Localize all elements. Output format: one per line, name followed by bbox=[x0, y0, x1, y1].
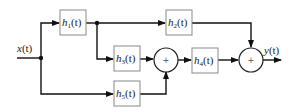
svg-text:h4(t): h4(t) bbox=[194, 54, 214, 68]
junction-h1 bbox=[95, 21, 99, 25]
block-h2: h2(t) bbox=[166, 10, 192, 35]
summer-1: + bbox=[154, 48, 178, 72]
output-label: y(t) bbox=[263, 44, 280, 57]
block-h3: h3(t) bbox=[114, 46, 140, 71]
plus-icon: + bbox=[248, 55, 254, 66]
svg-text:h3(t): h3(t) bbox=[116, 52, 136, 66]
block-diagram: x(t) h1(t) h2(t) h3(t) h4(t) h5(t) + + y… bbox=[0, 0, 296, 112]
input-label: x(t) bbox=[16, 42, 33, 55]
wire-h2-to-sum2 bbox=[192, 23, 251, 47]
wire-x-to-h1 bbox=[41, 23, 59, 58]
wire-h5-to-sum1 bbox=[140, 72, 166, 94]
junction-input bbox=[39, 56, 43, 60]
wire-h1-to-h3 bbox=[97, 23, 113, 59]
svg-text:h2(t): h2(t) bbox=[168, 16, 188, 30]
block-h5: h5(t) bbox=[114, 81, 140, 106]
wire-x-to-h5 bbox=[41, 58, 113, 94]
svg-text:h5(t): h5(t) bbox=[116, 87, 136, 101]
summer-2: + bbox=[239, 48, 263, 72]
plus-icon: + bbox=[163, 55, 169, 66]
block-h1: h1(t) bbox=[60, 10, 86, 35]
svg-text:h1(t): h1(t) bbox=[62, 16, 82, 30]
block-h4: h4(t) bbox=[192, 48, 218, 73]
